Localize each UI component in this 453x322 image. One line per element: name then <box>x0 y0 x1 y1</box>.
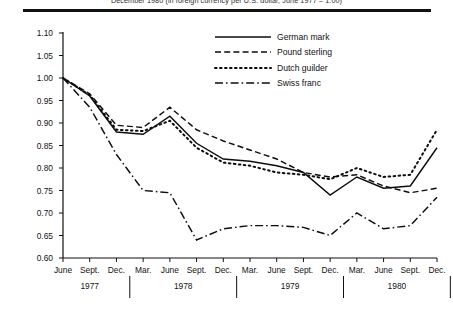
x-tick-label: June <box>161 265 179 275</box>
y-tick-label: 0.60 <box>27 253 53 263</box>
legend-label: Pound sterling <box>277 47 332 57</box>
legend-line-swatch <box>214 78 272 88</box>
legend-line-swatch <box>214 63 272 73</box>
y-tick-label: 0.75 <box>27 186 53 196</box>
x-tick-label: Dec. <box>215 265 232 275</box>
x-tick-label: Mar. <box>242 265 258 275</box>
legend-label: Swiss franc <box>277 78 321 88</box>
y-tick-label: 1.10 <box>27 28 53 38</box>
y-tick-label: 0.70 <box>27 208 53 218</box>
y-tick-label: 0.80 <box>27 163 53 173</box>
x-tick-label: Mar. <box>349 265 365 275</box>
y-tick-label: 0.90 <box>27 118 53 128</box>
x-axis-year-label: 1977 <box>80 281 99 291</box>
y-tick-label: 0.95 <box>27 96 53 106</box>
x-tick-label: Dec. <box>322 265 339 275</box>
legend-item: Swiss franc <box>214 76 384 92</box>
legend-item: Pound sterling <box>214 45 384 61</box>
series-line <box>63 78 437 179</box>
legend-line-swatch <box>214 47 272 57</box>
y-tick-label: 1.00 <box>27 73 53 83</box>
x-tick-label: Sept. <box>80 265 100 275</box>
chart-page: December 1980 (in foreign currency per U… <box>0 0 453 322</box>
x-tick-label: June <box>268 265 286 275</box>
legend-label: Dutch guilder <box>277 63 328 73</box>
series-line <box>63 78 437 240</box>
chart-legend: German markPound sterlingDutch guilderSw… <box>214 29 384 91</box>
x-tick-label: Dec. <box>428 265 445 275</box>
legend-label: German mark <box>277 32 330 42</box>
x-tick-label: Sept. <box>294 265 314 275</box>
legend-line-swatch <box>214 32 272 42</box>
x-tick-label: Sept. <box>401 265 421 275</box>
x-tick-label: Mar. <box>135 265 151 275</box>
x-axis-year-label: 1978 <box>174 281 193 291</box>
x-tick-label: Sept. <box>187 265 207 275</box>
y-tick-label: 0.85 <box>27 141 53 151</box>
x-tick-label: June <box>54 265 72 275</box>
legend-item: German mark <box>214 29 384 45</box>
legend-item: Dutch guilder <box>214 60 384 76</box>
x-axis-year-label: 1980 <box>388 281 407 291</box>
y-tick-label: 1.05 <box>27 51 53 61</box>
series-line <box>63 78 437 195</box>
x-tick-label: June <box>374 265 392 275</box>
x-axis-year-label: 1979 <box>281 281 300 291</box>
y-tick-label: 0.65 <box>27 231 53 241</box>
x-tick-label: Dec. <box>108 265 125 275</box>
